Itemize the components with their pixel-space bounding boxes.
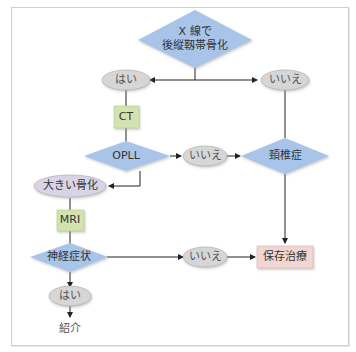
neuro-label: 神経症状 xyxy=(47,251,91,264)
yes-neuro-label: はい xyxy=(59,290,81,303)
xray-label-line1: X 線で xyxy=(178,26,211,39)
no-top-label: いいえ xyxy=(269,74,302,87)
no-neuro-label: いいえ xyxy=(189,251,222,264)
spondylosis-label: 頚椎症 xyxy=(269,150,302,163)
mri-label: MRI xyxy=(60,214,80,227)
ct-label: CT xyxy=(119,111,133,124)
referral-label: 紹介 xyxy=(59,323,81,336)
conservative-label: 保存治療 xyxy=(263,251,307,264)
flowchart-graphics xyxy=(0,0,356,352)
opll-label: OPLL xyxy=(112,150,140,163)
large-ossification-label: 大きい骨化 xyxy=(43,180,98,193)
xray-label-line2: 後縦靱帯骨化 xyxy=(162,40,228,53)
no-opll-label: いいえ xyxy=(189,150,222,163)
yes-top-label: はい xyxy=(115,74,137,87)
